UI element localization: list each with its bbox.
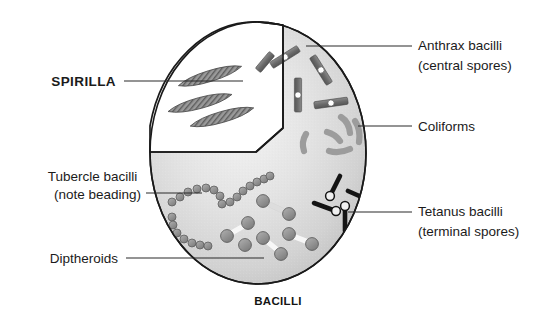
diptheroid xyxy=(239,239,252,252)
label-diptheroids[interactable]: Diptheroids xyxy=(50,251,119,266)
figure-caption: BACILLI xyxy=(254,295,301,307)
label-tetanus-line-2: (terminal spores) xyxy=(418,224,519,239)
spirilla-wedge-region xyxy=(150,22,283,152)
label-anthrax-line-2: (central spores) xyxy=(418,58,512,73)
coliform xyxy=(329,149,350,152)
bacilli-diagram: SPIRILLA Tubercle bacilli (note beading)… xyxy=(0,0,555,326)
label-tetanus-line-1: Tetanus bacilli xyxy=(418,204,503,219)
label-coliforms[interactable]: Coliforms xyxy=(418,119,475,134)
label-tubercle-line-2: (note beading) xyxy=(54,187,141,202)
label-spirilla[interactable]: SPIRILLA xyxy=(51,74,116,89)
anthrax-bacillus xyxy=(294,78,301,112)
label-anthrax-bacilli[interactable]: Anthrax bacilli (central spores) xyxy=(418,38,512,73)
label-tetanus-bacilli[interactable]: Tetanus bacilli (terminal spores) xyxy=(418,204,519,239)
coliform xyxy=(303,134,306,151)
spirilla-wedge xyxy=(150,22,283,152)
label-anthrax-line-1: Anthrax bacilli xyxy=(418,38,502,53)
figure-root: SPIRILLA Tubercle bacilli (note beading)… xyxy=(0,0,555,326)
label-tubercle-line-1: Tubercle bacilli xyxy=(48,169,138,184)
label-tubercle-bacilli[interactable]: Tubercle bacilli (note beading) xyxy=(48,169,141,202)
